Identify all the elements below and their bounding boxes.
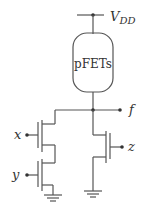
vdd-label: VDD bbox=[110, 9, 135, 26]
nfet-y bbox=[25, 159, 55, 195]
output-label-f: f bbox=[128, 102, 136, 117]
nfet-x bbox=[25, 110, 55, 163]
pfets-label: pFETs bbox=[74, 57, 112, 71]
input-label-x: x bbox=[14, 127, 22, 142]
vdd-rail bbox=[77, 13, 104, 34]
input-label-y: y bbox=[11, 167, 20, 182]
nfet-z bbox=[93, 110, 124, 191]
circuit-schematic: VDD pFETs f x y bbox=[0, 0, 146, 218]
input-label-z: z bbox=[127, 139, 135, 154]
ground-icon bbox=[44, 195, 62, 201]
ground-icon bbox=[84, 191, 102, 197]
output-node bbox=[55, 92, 122, 112]
